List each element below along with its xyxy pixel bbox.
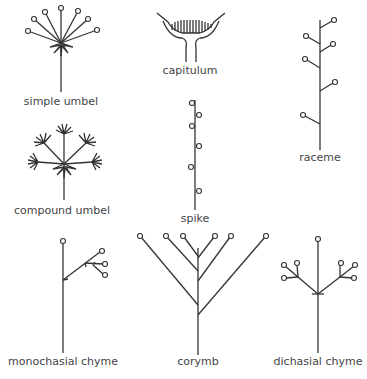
label-dichasial-chyme: dichasial chyme — [274, 355, 363, 368]
label-capitulum: capitulum — [163, 64, 218, 77]
corymb-figure — [138, 234, 269, 356]
label-corymb: corymb — [177, 355, 219, 368]
dichasial-chyme-figure — [282, 237, 358, 354]
label-simple-umbel: simple umbel — [24, 95, 98, 108]
label-monochasial-chyme: monochasial chyme — [8, 355, 118, 368]
simple-umbel-figure — [26, 6, 100, 93]
label-compound-umbel: compound umbel — [14, 204, 110, 217]
spike-figure — [189, 100, 202, 210]
label-raceme: raceme — [299, 151, 341, 164]
capitulum-figure — [157, 13, 225, 62]
raceme-figure — [301, 18, 338, 151]
compound-umbel-figure — [28, 124, 102, 200]
label-spike: spike — [181, 212, 210, 225]
monochasial-chyme-figure — [61, 239, 108, 354]
inflorescence-diagram — [0, 0, 367, 379]
